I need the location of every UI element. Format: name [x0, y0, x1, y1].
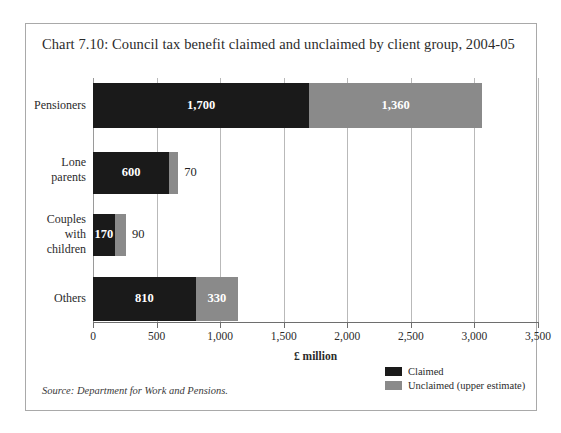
x-tick-label-500: 500 [148, 330, 165, 342]
category-label-line: parents [0, 170, 86, 185]
x-tick-500 [157, 322, 158, 328]
x-tick-1500 [284, 322, 285, 328]
bar-value-label: 330 [208, 291, 227, 306]
x-tick-label-2000: 2,000 [334, 330, 360, 342]
x-axis-line [93, 322, 539, 323]
x-tick-0 [93, 322, 94, 328]
x-tick-2000 [347, 322, 348, 328]
x-tick-3000 [474, 322, 475, 328]
legend-item-claimed: Claimed [385, 366, 525, 377]
x-tick-2500 [411, 322, 412, 328]
bar-segment-unclaimed [169, 152, 178, 194]
category-label-lone-parents: Loneparents [0, 155, 86, 185]
bar-value-label: 1,360 [382, 98, 410, 113]
x-tick-label-2500: 2,500 [398, 330, 424, 342]
chart-legend: ClaimedUnclaimed (upper estimate) [385, 366, 525, 394]
bar-value-label: 600 [122, 165, 141, 180]
x-tick-3500 [538, 322, 539, 328]
category-label-pensioners: Pensioners [0, 98, 86, 113]
legend-swatch-claimed [385, 367, 402, 376]
chart-title: Chart 7.10: Council tax benefit claimed … [42, 36, 532, 53]
category-label-line: Pensioners [0, 98, 86, 113]
x-tick-label-3000: 3,000 [461, 330, 487, 342]
category-label-line: Others [0, 291, 86, 306]
category-label-column: PensionersLoneparentsCoupleswithchildren… [0, 0, 86, 433]
legend-swatch-unclaimed [385, 381, 402, 390]
category-label-line: Lone [0, 155, 86, 170]
category-label-couples-with-children: Coupleswithchildren [0, 212, 86, 257]
x-tick-label-1500: 1,500 [271, 330, 297, 342]
legend-label: Unclaimed (upper estimate) [408, 380, 525, 391]
category-label-line: with [0, 227, 86, 242]
x-axis-title: £ million [93, 350, 538, 362]
category-label-line: Couples [0, 212, 86, 227]
bar-others: 810330 [93, 277, 238, 321]
bar-value-label: 1,700 [187, 98, 215, 113]
source-note: Source: Department for Work and Pensions… [42, 385, 228, 396]
category-label-others: Others [0, 291, 86, 306]
x-tick-label-0: 0 [90, 330, 96, 342]
x-tick-label-1000: 1,000 [207, 330, 233, 342]
x-tick-label-3500: 3,500 [525, 330, 551, 342]
gridline-3500 [538, 78, 539, 322]
bar-value-label: 170 [94, 227, 113, 242]
bar-value-label: 90 [132, 227, 145, 242]
bar-segment-unclaimed [115, 214, 126, 256]
bar-pensioners: 1,7001,360 [93, 83, 482, 128]
chart-page: Chart 7.10: Council tax benefit claimed … [0, 0, 561, 433]
bar-couples-with-children: 17090 [93, 214, 126, 256]
category-label-line: children [0, 242, 86, 257]
legend-label: Claimed [408, 366, 444, 377]
legend-item-unclaimed: Unclaimed (upper estimate) [385, 380, 525, 391]
x-tick-1000 [220, 322, 221, 328]
bar-lone-parents: 60070 [93, 152, 178, 194]
bar-value-label: 810 [135, 291, 154, 306]
bar-value-label: 70 [184, 165, 197, 180]
